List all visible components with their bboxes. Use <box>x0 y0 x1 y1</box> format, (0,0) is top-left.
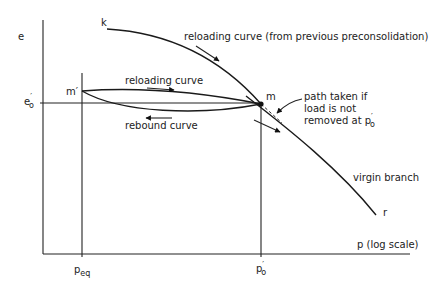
reloading-previous-label: reloading curve (from previous preconsol… <box>184 31 428 42</box>
p0-label: p′o <box>256 261 266 277</box>
rebound-curve <box>82 91 261 111</box>
point-m-prime-label: m′ <box>66 86 79 97</box>
point-m <box>258 101 263 106</box>
point-m-label: m <box>266 91 276 102</box>
peq-label: peq <box>74 264 90 278</box>
annotation-line-2: load is not <box>304 103 356 114</box>
y-axis-label: e <box>18 31 24 42</box>
arrow-annotation <box>277 99 302 113</box>
consolidation-diagram: e p (log scale) e′o peq p′o k m m′ r rel… <box>0 0 433 292</box>
rebound-label: rebound curve <box>125 120 198 131</box>
reloading-label: reloading curve <box>125 75 203 86</box>
virgin-branch-label: virgin branch <box>353 172 419 183</box>
point-k-label: k <box>101 17 107 28</box>
annotation-line-1: path taken if <box>304 91 368 102</box>
x-axis-label: p (log scale) <box>357 239 419 250</box>
annotation-line-3: removed at p′o <box>304 113 375 129</box>
e0-label: e′o <box>24 93 34 110</box>
path-if-load-not-removed <box>261 104 282 123</box>
point-r-label: r <box>383 207 388 218</box>
arrow-virgin <box>254 120 280 132</box>
